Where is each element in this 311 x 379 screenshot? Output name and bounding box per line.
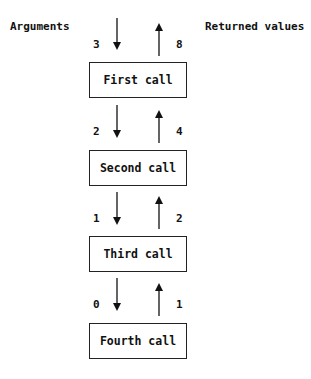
call-label: Second call — [100, 161, 176, 175]
argument-value: 1 — [93, 212, 100, 225]
call-label: Third call — [103, 247, 172, 261]
call-box-first: First call — [89, 62, 187, 98]
call-box-fourth: Fourth call — [89, 323, 187, 359]
call-box-second: Second call — [89, 150, 187, 186]
argument-value: 2 — [93, 125, 100, 138]
call-label: Fourth call — [100, 334, 176, 348]
returned-value: 8 — [176, 38, 183, 51]
argument-value: 3 — [93, 38, 100, 51]
call-label: First call — [103, 73, 172, 87]
returned-value: 2 — [176, 212, 183, 225]
returned-value: 4 — [176, 125, 183, 138]
argument-value: 0 — [93, 298, 100, 311]
call-box-third: Third call — [89, 236, 187, 272]
returned-value: 1 — [176, 298, 183, 311]
